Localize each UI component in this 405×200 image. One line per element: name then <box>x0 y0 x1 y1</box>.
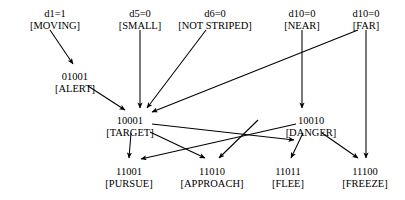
state-node-target: 10001 [TARGET] <box>106 115 154 139</box>
state-node-flee: 11011 [FLEE] <box>272 166 304 190</box>
condition-label: [MOVING] <box>30 20 80 32</box>
state-label: [PURSUE] <box>105 178 152 190</box>
edge-notstriped-approach <box>219 120 258 158</box>
input-node-moving: d1=1 [MOVING] <box>30 8 80 32</box>
condition-expression: d1=1 <box>30 8 80 20</box>
edge-near-pursue <box>141 124 296 159</box>
scan-artifact <box>10 44 12 53</box>
state-node-freeze: 11100 [FREEZE] <box>342 166 388 190</box>
state-code: 11100 <box>342 166 388 178</box>
state-label: [APPROACH] <box>180 178 243 190</box>
condition-label: [FAR] <box>353 20 380 32</box>
state-label: [FREEZE] <box>342 178 388 190</box>
edge-far-target <box>152 30 358 112</box>
condition-expression: d5=0 <box>119 8 162 20</box>
state-node-pursue: 11001 [PURSUE] <box>105 166 152 190</box>
condition-expression: d6=0 <box>178 8 252 20</box>
state-code: 11011 <box>272 166 304 178</box>
condition-label: [NEAR] <box>284 20 320 32</box>
state-label: [DANGER] <box>286 127 337 139</box>
state-node-approach: 11010 [APPROACH] <box>180 166 243 190</box>
scan-artifact <box>8 96 10 105</box>
input-node-small: d5=0 [SMALL] <box>119 8 162 32</box>
input-node-not-striped: d6=0 [NOT STRIPED] <box>178 8 252 32</box>
scan-artifact <box>12 140 14 149</box>
edge-moving-alert <box>50 30 73 64</box>
condition-expression: d10=0 <box>353 8 380 20</box>
state-label: [FLEE] <box>272 178 304 190</box>
state-label: [ALERT] <box>55 83 95 95</box>
condition-label: [NOT STRIPED] <box>178 20 252 32</box>
state-code: 10010 <box>286 115 337 127</box>
state-code: 10001 <box>106 115 154 127</box>
state-code: 11001 <box>105 166 152 178</box>
state-node-alert: 01001 [ALERT] <box>55 71 95 95</box>
state-node-danger: 10010 [DANGER] <box>286 115 337 139</box>
input-node-far: d10=0 [FAR] <box>353 8 380 32</box>
state-code: 01001 <box>55 71 95 83</box>
decision-network-diagram: d1=1 [MOVING] d5=0 [SMALL] d6=0 [NOT STR… <box>0 0 405 200</box>
condition-label: [SMALL] <box>119 20 162 32</box>
state-label: [TARGET] <box>106 127 154 139</box>
edge-notstriped-target <box>147 30 206 108</box>
edge-target-danger <box>152 124 294 140</box>
condition-expression: d10=0 <box>284 8 320 20</box>
edge-target-approach <box>150 132 205 158</box>
scan-artifact <box>6 18 8 27</box>
input-node-near: d10=0 [NEAR] <box>284 8 320 32</box>
state-code: 11010 <box>180 166 243 178</box>
